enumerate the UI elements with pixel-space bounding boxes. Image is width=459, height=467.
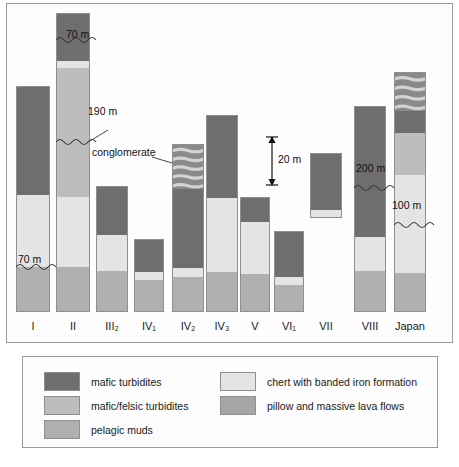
legend-swatch-mafic_felsic_turbidites — [44, 396, 80, 415]
annotation-100m-column-Japan: 100 m — [392, 199, 421, 211]
category-label-Japan: Japan — [384, 320, 436, 332]
segment-VIII-pelagic_muds-3 — [355, 271, 385, 312]
legend-swatch-mafic_turbidites — [44, 372, 80, 391]
segment-V-mafic_turbidites-0 — [241, 198, 269, 222]
stratigraphic-column-V[interactable] — [240, 197, 270, 312]
segment-IV3-pelagic_muds-2 — [207, 272, 237, 312]
segment-II-pelagic_muds-6 — [57, 267, 89, 312]
segment-II-mafic_turbidites-1 — [57, 41, 89, 61]
segment-III2-mafic_turbidites-0 — [97, 187, 127, 235]
stratigraphic-column-VIII[interactable] — [354, 106, 386, 312]
legend-item-mafic_turbidites[interactable]: mafic turbidites — [44, 372, 162, 391]
segment-IV3-mafic_turbidites-0 — [207, 116, 237, 198]
segment-III2-pelagic_muds-2 — [97, 271, 127, 312]
segment-Japan-conglomerate-0 — [395, 73, 425, 111]
legend-swatch-pillow_lava — [220, 396, 256, 415]
segment-I-mafic_turbidites-0 — [17, 87, 49, 195]
segment-VIII-mafic_turbidites-1 — [355, 179, 385, 237]
segment-VI1-mafic_turbidites-0 — [275, 232, 303, 277]
stratigraphic-column-IV3[interactable] — [206, 115, 238, 312]
segment-IV1-chert_bif-1 — [135, 272, 163, 280]
segment-V-chert_bif-1 — [241, 222, 269, 274]
segment-Japan-pelagic_muds-5 — [395, 273, 425, 312]
legend-swatch-pelagic_muds — [44, 420, 80, 439]
stratigraphic-column-IV1[interactable] — [134, 239, 164, 312]
segment-V-pelagic_muds-2 — [241, 274, 269, 312]
segment-IV1-pelagic_muds-2 — [135, 280, 163, 312]
legend-label-pelagic_muds: pelagic muds — [91, 424, 153, 436]
legend-swatch-chert_bif — [220, 372, 256, 391]
segment-Japan-mafic_felsic_turbidites-2 — [395, 133, 425, 175]
legend-item-pelagic_muds[interactable]: pelagic muds — [44, 420, 153, 439]
segment-IV1-mafic_turbidites-0 — [135, 240, 163, 272]
annotation-70m-column-II: 70 m — [66, 28, 89, 40]
annotation-70m-column-I: 70 m — [18, 253, 41, 265]
legend-item-pillow_lava[interactable]: pillow and massive lava flows — [220, 396, 404, 415]
segment-VII-mafic_turbidites-0 — [311, 154, 341, 210]
segment-I-pelagic_muds-2 — [17, 267, 49, 312]
stratigraphic-column-VI1[interactable] — [274, 231, 304, 312]
stratigraphic-column-figure: 70 m 70 m 190 m conglomerate 200 m 100 m… — [0, 0, 459, 467]
stratigraphic-column-II[interactable] — [56, 13, 90, 312]
segment-IV2-conglomerate-0 — [173, 145, 203, 189]
annotation-200m-column-VIII: 200 m — [356, 162, 385, 174]
stratigraphic-column-VII[interactable] — [310, 153, 342, 218]
segment-II-mafic_felsic_turbidites-3 — [57, 68, 89, 141]
annotation-190m-column-II: 190 m — [88, 105, 117, 117]
annotation-conglomerate: conglomerate — [92, 146, 156, 158]
segment-IV2-pelagic_muds-3 — [173, 277, 203, 312]
segment-VI1-pelagic_muds-2 — [275, 285, 303, 312]
stratigraphic-column-IV2[interactable] — [172, 144, 204, 312]
legend-label-mafic_felsic_turbidites: mafic/felsic turbidites — [91, 400, 188, 412]
segment-IV3-chert_bif-1 — [207, 198, 237, 272]
segment-IV2-chert_bif-2 — [173, 268, 203, 277]
segment-VIII-chert_bif-2 — [355, 237, 385, 271]
legend-label-pillow_lava: pillow and massive lava flows — [267, 400, 404, 412]
legend-label-mafic_turbidites: mafic turbidites — [91, 376, 162, 388]
segment-IV2-mafic_turbidites-1 — [173, 189, 203, 268]
stratigraphic-column-III2[interactable] — [96, 186, 128, 312]
segment-Japan-chert_bif-3 — [395, 175, 425, 197]
stratigraphic-column-I[interactable] — [16, 86, 50, 312]
legend-item-mafic_felsic_turbidites[interactable]: mafic/felsic turbidites — [44, 396, 188, 415]
segment-III2-chert_bif-1 — [97, 235, 127, 271]
legend-item-chert_bif[interactable]: chert with banded iron formation — [220, 372, 417, 391]
segment-VII-chert_bif-1 — [311, 210, 341, 218]
segment-II-chert_bif-2 — [57, 61, 89, 68]
segment-Japan-mafic_turbidites-1 — [395, 111, 425, 133]
legend-label-chert_bif: chert with banded iron formation — [267, 376, 417, 388]
segment-VI1-chert_bif-1 — [275, 277, 303, 285]
stratigraphic-column-Japan[interactable] — [394, 72, 426, 312]
scale-bar-label: 20 m — [278, 153, 301, 165]
segment-II-mafic_felsic_turbidites-4 — [57, 141, 89, 197]
segment-II-chert_bif-5 — [57, 197, 89, 267]
